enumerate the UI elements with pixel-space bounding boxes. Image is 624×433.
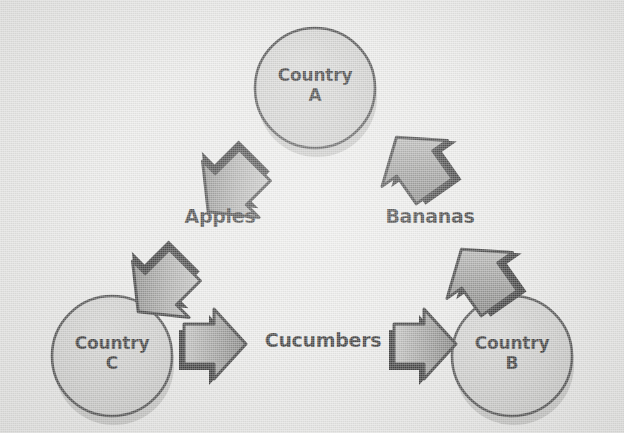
edge-label-bananas: Bananas [373,205,487,227]
arrow-cucumbers-left[interactable] [179,309,246,385]
edge-label-cucumbers: Cucumbers [262,329,384,351]
diagram-graphics [0,0,624,433]
trade-flow-diagram: Country A Country C Country B Apples Ban… [0,0,624,433]
country-b-circle[interactable] [452,296,572,416]
node-country-c [52,296,174,425]
node-country-a [255,28,377,157]
node-country-b [452,296,574,425]
edge-label-apples: Apples [168,205,272,227]
arrow-bananas-upper-face [364,114,467,214]
arrow-bananas-upper[interactable] [364,110,477,219]
country-a-circle[interactable] [255,28,375,148]
arrow-cucumbers-right[interactable] [389,309,456,385]
